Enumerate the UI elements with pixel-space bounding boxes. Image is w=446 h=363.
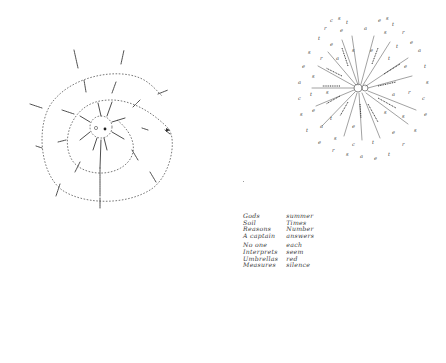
svg-text:e: e: [392, 129, 395, 135]
svg-text:e: e: [410, 39, 413, 45]
svg-text:r: r: [402, 29, 405, 35]
svg-text:s: s: [334, 135, 337, 141]
svg-text:a: a: [336, 55, 339, 61]
word: Measures: [243, 262, 278, 269]
svg-text:e: e: [302, 63, 305, 69]
svg-text:t: t: [396, 43, 399, 49]
svg-text:s: s: [346, 151, 349, 157]
svg-text:e: e: [370, 47, 373, 53]
svg-text:a: a: [418, 47, 421, 53]
svg-text:t: t: [372, 139, 375, 145]
word-list-right-column: summer Times Number answers each seem re…: [286, 213, 314, 269]
svg-text:a: a: [298, 79, 301, 85]
svg-text:t: t: [392, 21, 395, 27]
svg-text:e: e: [318, 139, 321, 145]
svg-text:e: e: [352, 123, 355, 129]
svg-text:s: s: [308, 49, 311, 55]
svg-text:r: r: [324, 25, 327, 31]
svg-text:s: s: [338, 15, 341, 21]
svg-text:s: s: [300, 111, 303, 117]
svg-text:e: e: [424, 111, 427, 117]
svg-text:t: t: [388, 151, 391, 157]
starburst-diagram: cst est rea tsc esr tea sre tsc aes tr e…: [0, 0, 446, 363]
word: silence: [286, 262, 314, 269]
svg-text:c: c: [330, 17, 333, 23]
svg-text:s: s: [352, 47, 355, 53]
svg-text:c: c: [352, 141, 355, 147]
svg-text:s: s: [384, 29, 387, 35]
svg-text:a: a: [392, 91, 395, 97]
svg-text:a: a: [320, 123, 323, 129]
svg-text:t: t: [306, 127, 309, 133]
svg-text:r: r: [320, 55, 323, 61]
svg-text:s: s: [426, 79, 429, 85]
svg-text:c: c: [298, 95, 301, 101]
svg-text:e: e: [374, 155, 377, 161]
svg-text:s: s: [312, 73, 315, 79]
svg-text:e: e: [404, 63, 407, 69]
svg-text:e: e: [378, 17, 381, 23]
svg-text:t: t: [388, 55, 391, 61]
word: A captain: [243, 233, 278, 240]
svg-text:t: t: [424, 63, 427, 69]
svg-text:s: s: [402, 113, 405, 119]
word: answers: [286, 233, 314, 240]
svg-text:e: e: [312, 107, 315, 113]
svg-text:s: s: [384, 109, 387, 115]
svg-text:e: e: [340, 27, 343, 33]
svg-text:a: a: [364, 25, 367, 31]
svg-text:c: c: [422, 95, 425, 101]
svg-text:s: s: [386, 15, 389, 21]
svg-text:r: r: [402, 141, 405, 147]
sketch-page: cst est rea tsc esr tea sre tsc aes tr e…: [0, 0, 446, 363]
svg-text:e: e: [330, 41, 333, 47]
svg-text:t: t: [318, 35, 321, 41]
svg-text:s: s: [326, 89, 329, 95]
svg-text:r: r: [408, 89, 411, 95]
svg-text:t: t: [310, 91, 313, 97]
svg-text:s: s: [414, 127, 417, 133]
svg-text:a: a: [360, 153, 363, 159]
svg-text:t: t: [346, 19, 349, 25]
word-list-left-column: Gods Soil Reasons A captain No one Inter…: [243, 213, 278, 269]
word-list: Gods Soil Reasons A captain No one Inter…: [243, 213, 314, 269]
svg-text:r: r: [332, 147, 335, 153]
svg-text:t: t: [330, 115, 333, 121]
stray-ink-mark: [243, 181, 244, 182]
